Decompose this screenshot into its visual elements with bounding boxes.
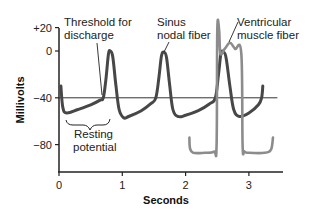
x-tick-label: 0 <box>56 179 62 191</box>
annotation-resting: Resting potential <box>66 119 116 153</box>
annotation-sinus-line1: Sinus <box>157 16 186 28</box>
y-tick-label: 0 <box>46 45 52 57</box>
annotation-threshold: Threshold for discharge <box>64 16 132 95</box>
annotation-sinus-pointer <box>164 42 169 52</box>
annotation-resting-line2: potential <box>73 141 116 153</box>
x-axis-title: Seconds <box>143 194 189 206</box>
x-tick-label: 1 <box>119 179 125 191</box>
x-tick-label: 2 <box>183 179 189 191</box>
series-line-sinus-nodal-fiber <box>61 51 263 119</box>
y-tick-label: +20 <box>33 22 52 34</box>
annotation-sinus-line2: nodal fiber <box>157 29 211 41</box>
y-axis-title: Millivolts <box>14 76 26 123</box>
y-tick-label: −80 <box>33 139 52 151</box>
annotation-ventricular: Ventricular muscle fiber <box>229 16 299 42</box>
annotation-threshold-pointer <box>97 43 102 95</box>
annotation-threshold-line1: Threshold for <box>64 16 132 28</box>
action-potential-chart: +200−40−80 0123 Seconds Millivolts Thres… <box>0 0 311 212</box>
annotation-ventricular-line2: muscle fiber <box>237 29 299 41</box>
annotation-sinus: Sinus nodal fiber <box>157 16 211 52</box>
annotation-threshold-line2: discharge <box>64 29 114 41</box>
x-tick-label: 3 <box>246 179 252 191</box>
y-tick-label: −40 <box>33 92 52 104</box>
annotation-ventricular-line1: Ventricular <box>237 16 292 28</box>
annotation-resting-line1: Resting <box>74 128 113 140</box>
